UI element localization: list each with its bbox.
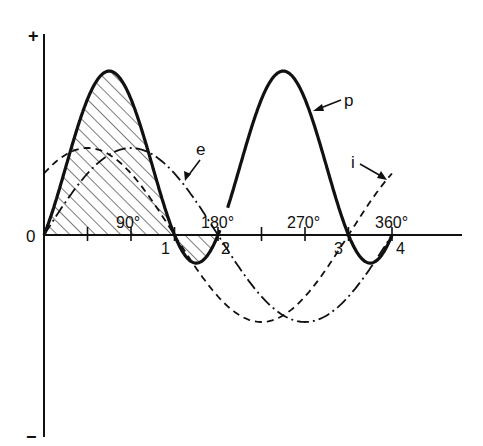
- point-label-1: 1: [161, 240, 170, 257]
- label-90-deg: 90°: [116, 214, 140, 231]
- power-waveform-diagram: + − 0 90° 180° 270° 360° 1 2 3 4 p e i: [0, 0, 483, 446]
- minus-sign: −: [26, 427, 37, 446]
- point-label-4: 4: [396, 240, 405, 257]
- positive-power-hatch: [44, 71, 175, 235]
- label-360-deg: 360°: [375, 214, 408, 231]
- point-label-2: 2: [221, 240, 230, 257]
- curve-label-e: e: [196, 140, 205, 159]
- label-270-deg: 270°: [287, 214, 320, 231]
- curve-label-i: i: [351, 153, 355, 172]
- label-180-deg: 180°: [201, 214, 234, 231]
- plus-sign: +: [28, 26, 39, 46]
- point-label-3: 3: [334, 240, 343, 257]
- arrow-i-icon: [360, 164, 381, 176]
- origin-label: 0: [26, 227, 35, 246]
- curve-label-p: p: [344, 91, 353, 110]
- arrowhead-i-icon: [377, 171, 387, 180]
- arrowhead-p-icon: [313, 104, 324, 111]
